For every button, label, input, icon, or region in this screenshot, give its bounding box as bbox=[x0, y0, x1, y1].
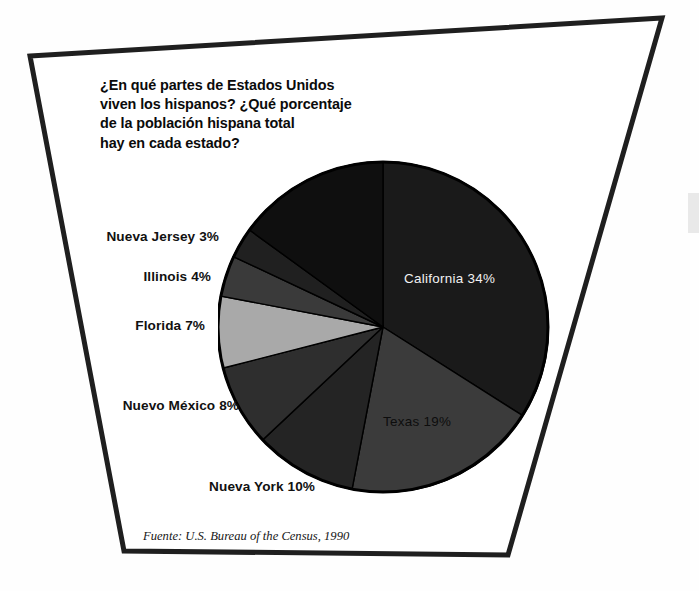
pie-label-nueva-jersey: Nueva Jersey 3% bbox=[0, 229, 219, 244]
pie-label-texas: Texas 19% bbox=[383, 414, 451, 429]
pie-label-florida: Florida 7% bbox=[0, 318, 205, 333]
pie-label-nueva-york: Nueva York 10% bbox=[0, 479, 315, 494]
pie-label-nuevo-mexico: Nuevo México 8% bbox=[0, 398, 239, 413]
pie-chart-svg bbox=[218, 160, 550, 494]
source-note: Fuente: U.S. Bureau of the Census, 1990 bbox=[143, 529, 349, 544]
figure-canvas: ¿En qué partes de Estados Unidos viven l… bbox=[0, 0, 699, 591]
pie-chart bbox=[218, 160, 550, 494]
pie-label-illinois: Illinois 4% bbox=[0, 269, 211, 284]
pie-label-california: California 34% bbox=[404, 271, 495, 286]
chart-question-text: ¿En qué partes de Estados Unidos viven l… bbox=[100, 76, 400, 153]
